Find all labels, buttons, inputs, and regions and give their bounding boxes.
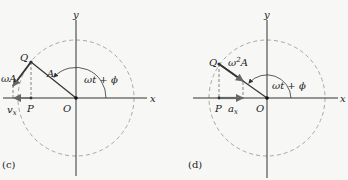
ax-label: ax xyxy=(228,103,238,116)
y-axis-label: y xyxy=(72,9,79,20)
panel-d: x y ωt + ϕ ω2A ax Q P O (d) xyxy=(188,9,346,178)
angle-label: ωt + ϕ xyxy=(84,74,118,85)
y-axis-label: y xyxy=(263,9,270,20)
o-label: O xyxy=(63,103,71,114)
angle-label: ωt + ϕ xyxy=(272,80,306,91)
caption-d: (d) xyxy=(188,159,202,170)
p-label: P xyxy=(26,103,34,114)
caption-c: (c) xyxy=(2,159,16,170)
panel-c: x y ωt + ϕ A ωA vx Q P O (c) xyxy=(1,9,156,176)
point-o xyxy=(74,96,78,100)
velocity-label: ωA xyxy=(1,73,16,84)
acceleration-label: ω2A xyxy=(228,56,248,68)
point-p xyxy=(30,97,33,100)
x-axis-label: x xyxy=(340,93,346,104)
point-q xyxy=(217,62,220,65)
q-label: Q xyxy=(209,57,217,68)
point-o xyxy=(265,96,269,100)
point-p xyxy=(218,97,221,100)
radius-label: A xyxy=(46,68,54,79)
vx-label: vx xyxy=(7,104,17,117)
q-label: Q xyxy=(20,52,28,63)
point-q xyxy=(29,60,32,63)
x-axis-label: x xyxy=(150,93,156,104)
phasor-diagram: x y ωt + ϕ A ωA vx Q P O (c) x y xyxy=(0,0,348,180)
o-label: O xyxy=(256,103,264,114)
p-label: P xyxy=(214,103,222,114)
